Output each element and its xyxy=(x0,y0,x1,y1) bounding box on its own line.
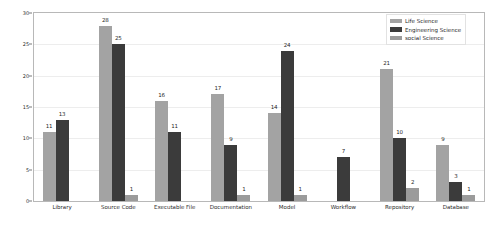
y-tick-mark xyxy=(29,44,32,45)
bar[interactable]: 11 xyxy=(168,132,181,201)
y-tick-mark xyxy=(29,201,32,202)
x-tick-label: Executable File xyxy=(147,204,203,210)
x-tick-label: Repository xyxy=(372,204,428,210)
bar-group: 7 xyxy=(315,13,371,201)
bar-value-label: 1 xyxy=(130,186,134,192)
bar-value-label: 11 xyxy=(171,123,178,129)
bar-value-label: 11 xyxy=(46,123,53,129)
bar[interactable]: 3 xyxy=(449,182,462,201)
bar-slot: 25 xyxy=(112,13,125,201)
legend-label: Life Science xyxy=(405,18,438,24)
bar[interactable]: 1 xyxy=(294,195,307,201)
bar-value-label: 25 xyxy=(115,35,122,41)
bar-value-label: 10 xyxy=(396,129,403,135)
bar-value-label: 24 xyxy=(284,42,291,48)
bar-value-label: 1 xyxy=(242,186,246,192)
bar[interactable]: 16 xyxy=(155,101,168,201)
y-tick-mark xyxy=(29,169,32,170)
bar[interactable]: 2 xyxy=(406,188,419,201)
bar-group: 1113 xyxy=(34,13,90,201)
bar-group: 1611 xyxy=(147,13,203,201)
bar-group: 1791 xyxy=(203,13,259,201)
x-tick-label: Library xyxy=(34,204,90,210)
bar-value-label: 7 xyxy=(342,148,346,154)
x-tick-label: Database xyxy=(428,204,484,210)
bar-value-label: 13 xyxy=(59,111,66,117)
legend-swatch-icon xyxy=(390,36,402,41)
y-tick-mark xyxy=(29,107,32,108)
bar[interactable]: 9 xyxy=(436,145,449,201)
x-tick-label: Workflow xyxy=(315,204,371,210)
y-axis: 051015202530 xyxy=(0,12,29,202)
bar-slot: 11 xyxy=(43,13,56,201)
legend-swatch-icon xyxy=(390,27,402,32)
bar-value-label: 16 xyxy=(158,92,165,98)
bar[interactable]: 11 xyxy=(43,132,56,201)
bar-value-label: 9 xyxy=(441,136,445,142)
bar[interactable]: 1 xyxy=(237,195,250,201)
bar[interactable]: 1 xyxy=(462,195,475,201)
bar-group: 14241 xyxy=(259,13,315,201)
bar-value-label: 2 xyxy=(411,179,415,185)
legend-label: Engineering Science xyxy=(405,27,461,33)
x-tick-label: Documentation xyxy=(203,204,259,210)
bar-slot: 1 xyxy=(237,13,250,201)
bar-slot xyxy=(69,13,82,201)
bar-value-label: 17 xyxy=(214,85,221,91)
bar[interactable]: 10 xyxy=(393,138,406,201)
bar-value-label: 28 xyxy=(102,17,109,23)
bar-value-label: 9 xyxy=(229,136,233,142)
bar-group: 28251 xyxy=(90,13,146,201)
bar[interactable]: 1 xyxy=(125,195,138,201)
y-tick-mark xyxy=(29,13,32,14)
legend-swatch-icon xyxy=(390,19,402,24)
chart-legend: Life ScienceEngineering Sciencesocial Sc… xyxy=(386,14,466,45)
bar-slot xyxy=(324,13,337,201)
bar[interactable]: 25 xyxy=(112,44,125,201)
bar[interactable]: 14 xyxy=(268,113,281,201)
bar[interactable]: 28 xyxy=(99,26,112,201)
bar-slot: 11 xyxy=(168,13,181,201)
bar-slot: 1 xyxy=(125,13,138,201)
bar-slot: 1 xyxy=(294,13,307,201)
bar[interactable]: 7 xyxy=(337,157,350,201)
legend-item[interactable]: Life Science xyxy=(390,18,461,24)
bar-value-label: 21 xyxy=(383,60,390,66)
bar-value-label: 3 xyxy=(454,173,458,179)
bar-slot xyxy=(350,13,363,201)
y-tick-mark xyxy=(29,138,32,139)
y-tick-mark xyxy=(29,75,32,76)
x-axis-labels: LibrarySource CodeExecutable FileDocumen… xyxy=(34,204,484,210)
bar-slot: 7 xyxy=(337,13,350,201)
legend-item[interactable]: social Science xyxy=(390,35,461,41)
bar-slot: 13 xyxy=(56,13,69,201)
bar-slot: 17 xyxy=(211,13,224,201)
bar[interactable]: 24 xyxy=(281,51,294,201)
bar[interactable]: 9 xyxy=(224,145,237,201)
x-tick-label: Source Code xyxy=(90,204,146,210)
bar-slot: 14 xyxy=(268,13,281,201)
bar[interactable]: 17 xyxy=(211,94,224,201)
bar[interactable]: 21 xyxy=(380,69,393,201)
bar-slot: 9 xyxy=(224,13,237,201)
bar[interactable]: 13 xyxy=(56,120,69,201)
bar-value-label: 1 xyxy=(467,186,471,192)
x-tick-label: Model xyxy=(259,204,315,210)
legend-item[interactable]: Engineering Science xyxy=(390,27,461,33)
bar-chart: 051015202530 111328251161117911424172110… xyxy=(0,0,498,227)
bar-slot: 28 xyxy=(99,13,112,201)
legend-label: social Science xyxy=(405,35,444,41)
bar-slot: 16 xyxy=(155,13,168,201)
bar-slot: 24 xyxy=(281,13,294,201)
bar-value-label: 14 xyxy=(271,104,278,110)
bar-value-label: 1 xyxy=(298,186,302,192)
bar-slot xyxy=(181,13,194,201)
